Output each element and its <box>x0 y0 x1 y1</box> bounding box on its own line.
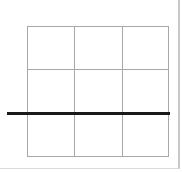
canvas-panel <box>0 0 180 169</box>
grid-vertical-line-2 <box>122 27 123 156</box>
grid-horizontal-line-1 <box>28 69 168 70</box>
highlight-horizontal-line <box>7 112 170 115</box>
three-by-three-grid <box>27 26 169 157</box>
grid-vertical-line-1 <box>74 27 75 156</box>
